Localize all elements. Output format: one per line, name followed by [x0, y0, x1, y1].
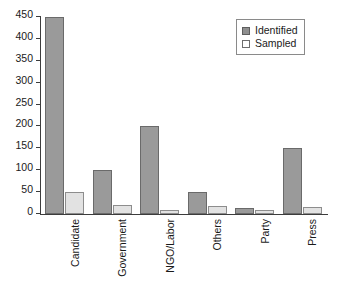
- chart-legend: Identified Sampled: [236, 19, 305, 55]
- bar-government-identified: [93, 170, 112, 214]
- y-axis-tick-label: 400: [15, 31, 33, 42]
- empty-square-icon: [242, 40, 250, 48]
- bar-government-sampled: [113, 205, 132, 214]
- bar-group: [93, 17, 132, 214]
- tick-mark: [36, 191, 40, 192]
- tick-mark: [36, 147, 40, 148]
- legend-label-sampled: Sampled: [255, 38, 296, 49]
- y-axis-tick-label: 100: [15, 162, 33, 173]
- y-axis-tick-label: 150: [15, 140, 33, 151]
- x-axis-label-ngo-labor: NGO/Labor: [165, 219, 176, 273]
- tick-mark: [36, 169, 40, 170]
- bar-ngo-labor-sampled: [160, 210, 179, 214]
- y-axis-tick-label: 300: [15, 75, 33, 86]
- tick-mark: [36, 16, 40, 17]
- bar-press-sampled: [303, 207, 322, 214]
- y-axis-tick-label: 450: [15, 9, 33, 20]
- bar-others-identified: [188, 192, 207, 214]
- bar-press-identified: [283, 148, 302, 214]
- y-axis-tick-label: 250: [15, 97, 33, 108]
- bar-chart: 450400350300250200150100500 CandidateGov…: [0, 0, 340, 294]
- tick-mark: [36, 125, 40, 126]
- bar-party-identified: [235, 208, 254, 214]
- legend-label-identified: Identified: [255, 25, 298, 36]
- y-axis-tick-label: 350: [15, 53, 33, 64]
- tick-mark: [36, 38, 40, 39]
- bar-party-sampled: [255, 210, 274, 214]
- x-axis-label-government: Government: [117, 219, 128, 277]
- tick-mark: [36, 213, 40, 214]
- y-axis-tick-label: 0: [27, 206, 33, 217]
- tick-mark: [36, 104, 40, 105]
- bar-candidate-sampled: [65, 192, 84, 214]
- bar-candidate-identified: [45, 17, 64, 214]
- legend-item-identified: Identified: [242, 24, 298, 37]
- bar-group: [45, 17, 84, 214]
- filled-square-icon: [242, 27, 250, 35]
- legend-item-sampled: Sampled: [242, 37, 298, 50]
- bar-others-sampled: [208, 206, 227, 214]
- tick-mark: [36, 60, 40, 61]
- x-axis-label-others: Others: [212, 219, 223, 251]
- bar-group: [188, 17, 227, 214]
- y-axis-tick-label: 200: [15, 118, 33, 129]
- bar-ngo-labor-identified: [140, 126, 159, 214]
- tick-mark: [36, 82, 40, 83]
- x-axis-label-press: Press: [307, 219, 318, 246]
- x-axis-label-party: Party: [260, 219, 271, 244]
- bar-group: [140, 17, 179, 214]
- x-axis-line: [40, 214, 328, 215]
- x-axis-label-candidate: Candidate: [70, 219, 81, 267]
- y-axis-tick-label: 50: [21, 184, 33, 195]
